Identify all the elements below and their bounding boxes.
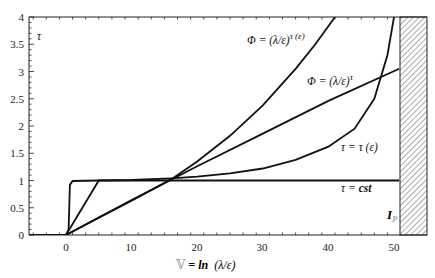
annotation-phi-tau-eps: Φ = (λ/ε)τ (ε) [247,31,305,47]
y-tick-0: 0 [19,229,25,241]
y-tick-0.5: 0.5 [10,202,24,214]
y-tick-1.5: 1.5 [10,147,24,159]
x-tick-labels: 0 10 20 30 40 50 [63,241,400,253]
annotation-tau-cst: τ = cst [341,182,372,194]
y-tick-labels: 0 0.5 1 1.5 2 2.5 3 3.5 4 [10,11,24,241]
hatched-region-ip [400,17,427,235]
curves [30,17,399,235]
annotation-phi-tau: Φ = (λ/ε)τ [307,72,354,88]
annotation-ip: IP [386,207,398,224]
x-tick-30: 30 [257,241,269,253]
x-axis-label: 𝕍 = ln (λ/ε) [175,258,235,272]
curve-1 [30,17,394,235]
axis-ticks [29,17,387,235]
annotation-tau-eps: τ = τ (ε) [341,141,378,154]
x-tick-20: 20 [192,241,204,253]
x-tick-40: 40 [323,241,335,253]
y-tick-3: 3 [19,66,25,78]
x-tick-10: 10 [126,241,138,253]
curve-3 [66,17,335,235]
y-tick-2: 2 [19,120,25,132]
y-tick-3.5: 3.5 [10,38,24,50]
y-tick-2.5: 2.5 [10,93,24,105]
chart-figure: 0 0.5 1 1.5 2 2.5 3 3.5 4 0 10 20 30 40 … [0,0,435,278]
axes [29,17,427,235]
y-tick-4: 4 [19,11,25,23]
y-tick-1: 1 [19,175,25,187]
x-tick-50: 50 [389,241,401,253]
x-tick-0: 0 [63,241,69,253]
y-axis-label: τ [37,30,42,42]
